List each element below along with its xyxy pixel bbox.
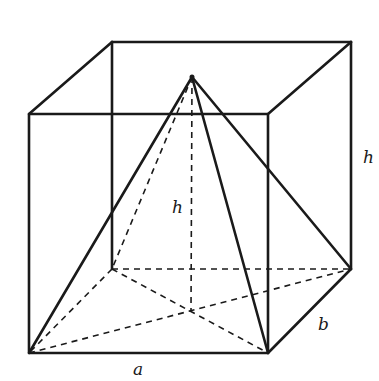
base-diagonal-2 [112, 269, 268, 353]
pyramid-edge-front-right [192, 77, 268, 353]
pyramid-edge-front-left [29, 77, 192, 353]
label-h-edge: h [363, 147, 374, 167]
label-a: a [133, 359, 143, 379]
pyramid-edge-back-left [112, 77, 192, 269]
label-b: b [318, 314, 329, 334]
box-edges [29, 42, 351, 353]
bottom-right-depth-edge [268, 269, 351, 353]
pyramid-height-line [191, 77, 192, 311]
apex-point [190, 75, 195, 80]
top-right-depth-edge [268, 42, 351, 114]
hidden-edges [29, 77, 351, 353]
box-pyramid-figure: a b h h [0, 0, 379, 381]
pyramid-edge-back-right [192, 77, 351, 269]
top-left-depth-edge [29, 42, 112, 114]
diagram-canvas: a b h h [0, 0, 379, 381]
label-h-height: h [172, 197, 183, 217]
